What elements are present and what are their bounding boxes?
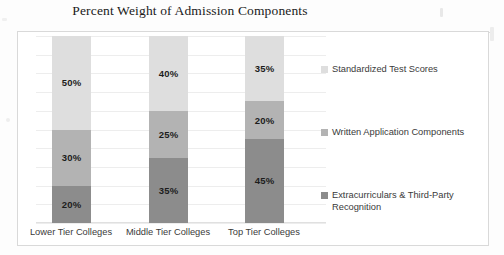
bar-segment[interactable]: 30% <box>52 130 91 186</box>
x-axis-tick-label: Top Tier Colleges <box>209 227 319 237</box>
bar-segment[interactable]: 20% <box>245 101 284 138</box>
bar-segment[interactable]: 35% <box>245 36 284 101</box>
bar-segment-label: 20% <box>255 115 275 126</box>
legend-item[interactable]: Standardized Test Scores <box>321 64 467 76</box>
plot-area: 50%30%20%40%25%35%35%20%45% <box>36 36 326 223</box>
bar-segment-label: 45% <box>255 175 275 186</box>
stacked-bar[interactable]: 50%30%20% <box>52 36 91 223</box>
legend-item[interactable]: Extracurriculars & Third-Party Recogniti… <box>321 190 467 213</box>
bar-segment-label: 30% <box>62 152 82 163</box>
legend-item[interactable]: Written Application Components <box>321 127 467 139</box>
legend-swatch-icon <box>321 192 328 199</box>
bar-segment-label: 35% <box>159 185 179 196</box>
bar-segment[interactable]: 35% <box>149 158 188 223</box>
legend-label: Extracurriculars & Third-Party Recogniti… <box>332 190 467 213</box>
bar-segment-label: 25% <box>159 129 179 140</box>
legend-swatch-icon <box>321 129 328 136</box>
bar-segment[interactable]: 40% <box>149 36 188 111</box>
legend-swatch-icon <box>321 66 328 73</box>
bar-segment[interactable]: 20% <box>52 186 91 223</box>
chart-title: Percent Weight of Admission Components <box>0 3 380 19</box>
legend-label: Written Application Components <box>332 127 467 139</box>
gridline <box>36 223 326 224</box>
chart-frame: 50%30%20%40%25%35%35%20%45% Lower Tier C… <box>17 31 489 246</box>
bar-segment[interactable]: 50% <box>52 36 91 130</box>
bar-segment-label: 50% <box>62 77 82 88</box>
scanned-page: Percent Weight of Admission Components 5… <box>0 0 504 255</box>
stacked-bar[interactable]: 40%25%35% <box>149 36 188 223</box>
stacked-bar[interactable]: 35%20%45% <box>245 36 284 223</box>
bar-segment-label: 35% <box>255 63 275 74</box>
legend-label: Standardized Test Scores <box>332 64 467 76</box>
bar-segment[interactable]: 45% <box>245 139 284 223</box>
bar-segment-label: 20% <box>62 199 82 210</box>
scan-artifact-speck <box>440 8 443 17</box>
x-axis-labels: Lower Tier CollegesMiddle Tier CollegesT… <box>36 227 326 247</box>
scan-artifact-speck <box>490 27 494 41</box>
bar-segment[interactable]: 25% <box>149 111 188 158</box>
x-axis-tick-label: Middle Tier Colleges <box>113 227 223 237</box>
bar-segment-label: 40% <box>159 68 179 79</box>
scan-artifact-speck <box>6 118 10 122</box>
x-axis-tick-label: Lower Tier Colleges <box>16 227 126 237</box>
